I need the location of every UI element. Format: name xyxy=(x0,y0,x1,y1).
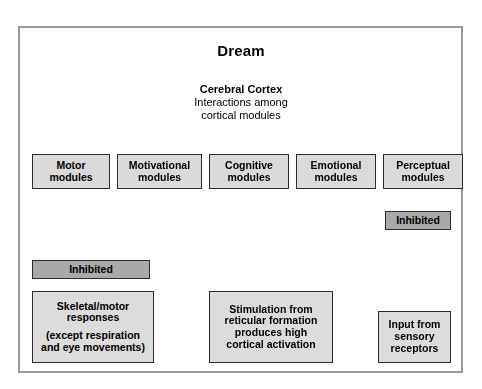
box-skeletal-motor-responses[interactable]: Skeletal/motor responses (except respira… xyxy=(32,291,154,363)
module-box-motor[interactable]: Motor modules xyxy=(32,154,110,189)
module-box-emotional[interactable]: Emotional modules xyxy=(296,154,376,189)
skeletal-line2: responses xyxy=(33,312,153,324)
module-motor-line1: Motor xyxy=(33,160,109,172)
module-cognitive-line2: modules xyxy=(210,172,288,184)
module-motivational-line2: modules xyxy=(118,172,201,184)
module-box-motivational[interactable]: Motivational modules xyxy=(117,154,202,189)
module-box-perceptual[interactable]: Perceptual modules xyxy=(383,154,463,189)
box-reticular-formation[interactable]: Stimulation from reticular formation pro… xyxy=(209,291,333,363)
module-motor-line2: modules xyxy=(33,172,109,184)
module-perceptual-line1: Perceptual xyxy=(384,160,462,172)
skeletal-line3: (except respiration xyxy=(33,330,153,342)
cortex-subtext-line-1: Interactions among xyxy=(0,96,482,109)
module-emotional-line2: modules xyxy=(297,172,375,184)
inhibited-box-motor[interactable]: Inhibited xyxy=(32,260,150,279)
box-sensory-input[interactable]: Input from sensory receptors xyxy=(378,311,451,363)
sensory-line3: receptors xyxy=(379,343,450,355)
reticular-line4: cortical activation xyxy=(210,339,332,351)
reticular-line3: produces high xyxy=(210,327,332,339)
module-motivational-line1: Motivational xyxy=(118,160,201,172)
cortex-subtext-line-2: cortical modules xyxy=(0,109,482,122)
cerebral-cortex-subtext: Interactions among cortical modules xyxy=(0,96,482,122)
module-box-cognitive[interactable]: Cognitive modules xyxy=(209,154,289,189)
skeletal-line4: and eye movements) xyxy=(33,342,153,354)
inhibited-box-perceptual[interactable]: Inhibited xyxy=(385,211,451,230)
module-emotional-line1: Emotional xyxy=(297,160,375,172)
module-cognitive-line1: Cognitive xyxy=(210,160,288,172)
module-perceptual-line2: modules xyxy=(384,172,462,184)
cerebral-cortex-heading: Cerebral Cortex xyxy=(0,83,482,95)
dream-label: Dream xyxy=(0,42,482,59)
figure-canvas: Dream Cerebral Cortex Interactions among… xyxy=(0,0,482,389)
